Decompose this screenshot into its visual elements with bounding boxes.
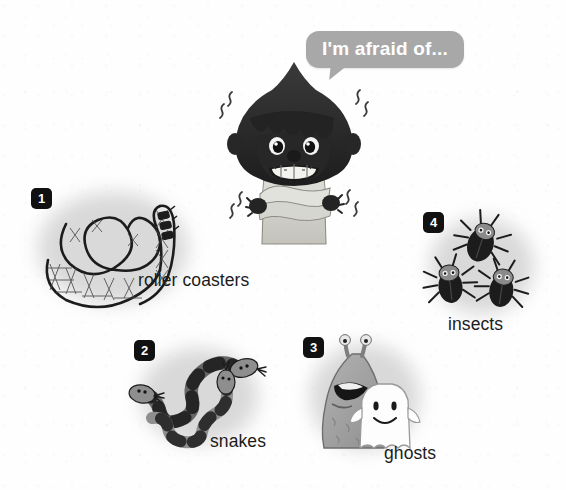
ghosts-icon — [306, 338, 431, 456]
speech-bubble-tail — [329, 63, 348, 82]
item-3-badge: 3 — [303, 337, 324, 358]
worksheet-scene: I'm afraid of... — [0, 0, 566, 490]
speech-bubble-text: I'm afraid of... — [306, 31, 464, 68]
roller-coaster-icon — [36, 190, 196, 315]
speech-bubble: I'm afraid of... — [306, 31, 464, 68]
item-2-label: snakes — [210, 431, 266, 452]
item-2-badge: 2 — [134, 340, 155, 361]
item-4-badge: 4 — [423, 212, 444, 233]
item-4-label: insects — [448, 314, 503, 335]
item-3-label: ghosts — [384, 443, 436, 464]
scared-character-illustration — [214, 58, 374, 248]
item-1-badge: 1 — [31, 188, 52, 209]
item-1-label: roller coasters — [138, 270, 249, 291]
scared-character — [214, 58, 374, 248]
